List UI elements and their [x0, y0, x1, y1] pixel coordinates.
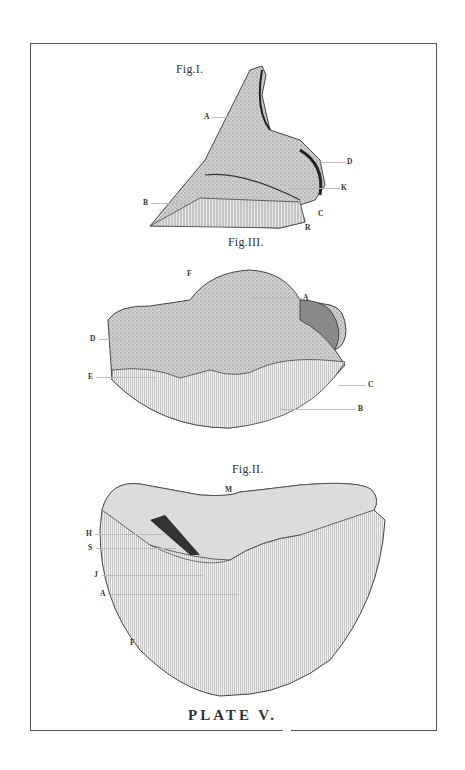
fig2-title: Fig.II. [232, 462, 263, 477]
leader-line [96, 377, 156, 378]
leader-line [212, 117, 240, 118]
fig2-label-f: F [130, 638, 135, 647]
fig3-label-f: F [187, 269, 192, 278]
fig1-illustration [0, 0, 465, 770]
leader-line [108, 594, 238, 595]
leader-line [280, 409, 356, 410]
fig2-label-a: A [100, 589, 105, 598]
leader-line [151, 203, 186, 204]
fig3-title: Fig.III. [228, 235, 264, 250]
fig2-label-j: J [94, 570, 98, 579]
fig2-label-m: M [225, 485, 232, 494]
leader-line [250, 298, 302, 299]
leader-line [96, 548, 176, 549]
fig3-label-e: E [88, 372, 93, 381]
leader-line [338, 385, 366, 386]
fig3-label-c: C [368, 380, 373, 389]
fig1-label-d: D [347, 157, 352, 166]
plate-caption: PLATE V. [0, 707, 465, 724]
fig3-label-a: A [303, 293, 308, 302]
leader-line [95, 534, 165, 535]
fig1-label-b: B [143, 198, 148, 207]
leader-line [290, 188, 340, 189]
leader-line [102, 575, 202, 576]
fig3-label-b: B [358, 404, 363, 413]
fig1-label-r: R [305, 223, 310, 232]
leader-line [99, 339, 124, 340]
fig3-label-d: D [90, 334, 95, 343]
leader-line [318, 162, 346, 163]
fig2-label-s: S [88, 543, 92, 552]
fig1-label-k: K [341, 183, 347, 192]
fig1-label-a: A [204, 112, 209, 121]
fig1-label-c: C [318, 209, 323, 218]
fig2-label-h: H [86, 529, 92, 538]
